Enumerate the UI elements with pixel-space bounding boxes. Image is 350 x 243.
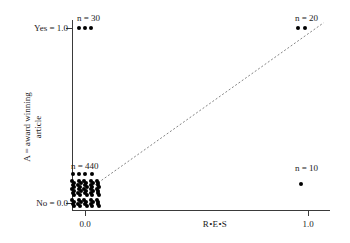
data-point bbox=[90, 204, 94, 208]
x-tick-label-zero: 0.0 bbox=[79, 219, 90, 229]
annotation-n20: n = 20 bbox=[295, 13, 318, 23]
annotation-n440: n = 440 bbox=[71, 161, 99, 171]
y-axis-title-line-1: A = award winning bbox=[22, 62, 33, 192]
y-axis-title-line-2: article bbox=[33, 62, 44, 192]
y-tick-label-no: No = 0.0 bbox=[36, 198, 68, 208]
data-point bbox=[299, 182, 303, 186]
annotation-n30: n = 30 bbox=[77, 13, 100, 23]
annotation-n10: n = 10 bbox=[295, 163, 318, 173]
x-axis-line bbox=[72, 210, 330, 211]
data-point bbox=[83, 172, 87, 176]
data-point bbox=[78, 204, 82, 208]
scatter-plot-figure: Yes = 1.0 No = 0.0 0.0 1.0 R•E•S A = awa… bbox=[0, 0, 350, 243]
data-point bbox=[296, 26, 300, 30]
data-point bbox=[90, 172, 94, 176]
data-point bbox=[90, 193, 94, 197]
x-tick-zero bbox=[85, 210, 86, 216]
data-point bbox=[71, 172, 75, 176]
x-tick-one bbox=[308, 210, 309, 216]
x-tick-label-one: 1.0 bbox=[302, 219, 313, 229]
y-axis-title: A = award winning article bbox=[22, 62, 44, 192]
y-tick-label-yes: Yes = 1.0 bbox=[34, 23, 68, 33]
data-point bbox=[97, 193, 101, 197]
data-point bbox=[78, 193, 82, 197]
data-point bbox=[89, 26, 93, 30]
x-axis-title: R•E•S bbox=[203, 219, 227, 229]
data-point bbox=[77, 26, 81, 30]
data-point bbox=[303, 26, 307, 30]
data-point bbox=[97, 204, 101, 208]
data-point bbox=[83, 26, 87, 30]
data-point bbox=[77, 172, 81, 176]
